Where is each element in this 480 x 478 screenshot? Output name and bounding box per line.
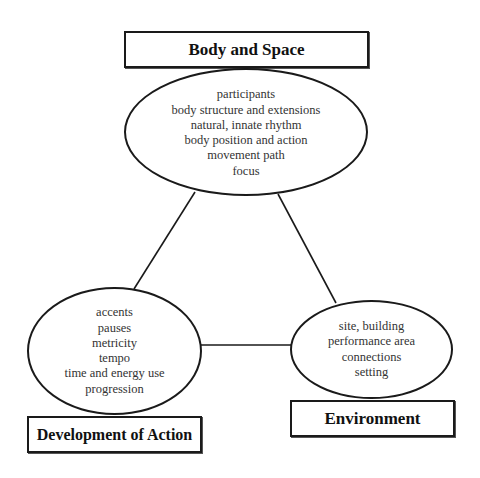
environment-ellipse: site, building performance area connecti… [290, 300, 453, 399]
body-space-item: body structure and extensions [172, 103, 321, 118]
edge-body-to-environment [278, 194, 336, 303]
body-space-title: Body and Space [188, 40, 304, 60]
environment-item: performance area [328, 334, 415, 349]
edge-body-to-development [134, 192, 195, 289]
development-item: time and energy use [64, 366, 164, 381]
development-title-box: Development of Action [27, 416, 202, 453]
development-item: pauses [98, 321, 131, 336]
environment-title-box: Environment [290, 400, 455, 437]
body-space-item: participants [217, 87, 275, 102]
development-item: tempo [99, 351, 130, 366]
body-space-ellipse: participants body structure and extensio… [124, 68, 368, 196]
environment-item: setting [355, 365, 388, 380]
diagram-canvas: Body and Space participants body structu… [0, 0, 480, 478]
development-title: Development of Action [37, 426, 193, 444]
development-ellipse: accents pauses metricity tempo time and … [27, 287, 202, 415]
body-space-title-box: Body and Space [124, 31, 369, 68]
body-space-item: natural, innate rhythm [191, 118, 302, 133]
environment-title: Environment [324, 409, 420, 429]
body-space-item: focus [232, 164, 259, 179]
environment-item: connections [342, 350, 402, 365]
development-item: accents [96, 305, 133, 320]
body-space-item: movement path [207, 148, 284, 163]
development-item: progression [85, 382, 143, 397]
environment-item: site, building [339, 319, 404, 334]
body-space-item: body position and action [184, 133, 307, 148]
development-item: metricity [92, 336, 137, 351]
